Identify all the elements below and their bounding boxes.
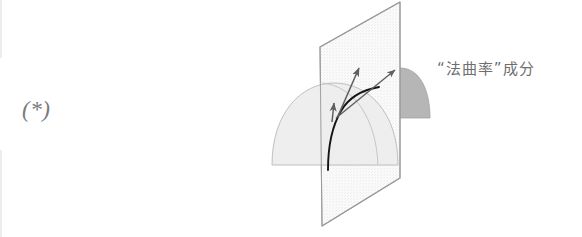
diagram-svg — [258, 0, 438, 237]
normal-curvature-diagram — [258, 0, 438, 237]
scan-edge-artifact — [0, 150, 2, 237]
scan-edge-artifact — [0, 0, 2, 58]
page-canvas: (*) — [0, 0, 582, 237]
equation-reference-label: (*) — [22, 92, 82, 128]
normal-curvature-caption: “法曲率”成分 — [437, 56, 577, 82]
